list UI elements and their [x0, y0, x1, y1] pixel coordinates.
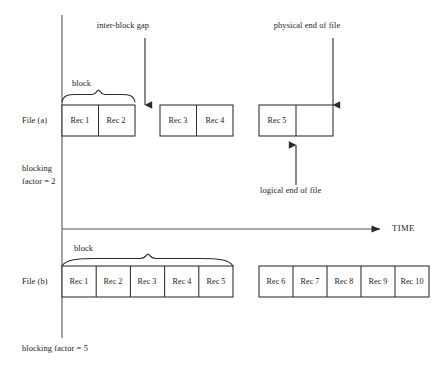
record-cell-a2-1: Rec 3	[169, 116, 188, 126]
file-a-label: File (a)	[22, 115, 47, 126]
block-brace-file-a	[62, 90, 135, 102]
record-cell-b1-1: Rec 1	[70, 277, 89, 287]
file-b-blocking-factor-label: blocking factor = 5	[22, 343, 88, 354]
record-cell-b1-5: Rec 5	[207, 277, 226, 287]
physical-end-of-file-label: physical end of file	[274, 20, 340, 31]
record-cell-b2-3: Rec 8	[335, 277, 354, 287]
record-cell-a3-1: Rec 5	[268, 116, 287, 126]
record-cell-b1-3: Rec 3	[138, 277, 157, 287]
block-label-file-a: block	[72, 78, 91, 89]
record-cell-a2-2: Rec 4	[206, 116, 225, 126]
record-cell-a1-2: Rec 2	[107, 116, 126, 126]
record-cell-b2-1: Rec 6	[267, 277, 286, 287]
record-cell-b1-4: Rec 4	[173, 277, 192, 287]
diagram-canvas: inter-block gap physical end of file log…	[0, 0, 446, 371]
inter-block-gap-label: inter-block gap	[97, 20, 149, 31]
record-cell-b1-2: Rec 2	[104, 277, 123, 287]
time-axis-label: TIME	[392, 223, 415, 234]
logical-end-of-file-label: logical end of file	[260, 185, 321, 196]
record-cell-a1-1: Rec 1	[71, 116, 90, 126]
block-label-file-b: block	[74, 243, 93, 254]
block-brace-file-b	[62, 254, 233, 266]
record-cell-b2-2: Rec 7	[301, 277, 320, 287]
file-b-label: File (b)	[22, 276, 48, 287]
file-a-blocking-factor-line2: factor = 2	[22, 176, 56, 187]
record-cell-b2-5: Rec 10	[401, 277, 424, 287]
file-a-blocking-factor-line1: blocking	[22, 163, 52, 174]
diagram-vector-layer	[0, 0, 446, 371]
record-cell-b2-4: Rec 9	[369, 277, 388, 287]
